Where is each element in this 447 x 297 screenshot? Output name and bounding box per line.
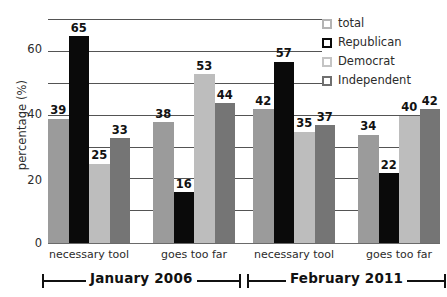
bar-independent bbox=[110, 138, 131, 243]
legend-swatch-icon bbox=[322, 38, 332, 48]
bar-total bbox=[253, 109, 274, 243]
legend-item-total[interactable]: total bbox=[322, 14, 442, 33]
group-bracket-cap-left bbox=[42, 274, 44, 288]
bar-independent bbox=[315, 125, 336, 243]
bar-total bbox=[358, 135, 379, 243]
bar-value-label: 37 bbox=[312, 112, 339, 124]
bar-value-label: 33 bbox=[107, 125, 134, 137]
bar-value-label: 65 bbox=[66, 23, 93, 35]
clipped-title-text bbox=[0, 0, 447, 4]
bar-democrat bbox=[89, 164, 110, 244]
category-label: goes too far bbox=[349, 249, 447, 260]
y-axis-tick-labels: 60 40 20 0 bbox=[10, 0, 42, 297]
bar-independent bbox=[215, 103, 236, 243]
group-bracket-cap-right bbox=[444, 274, 446, 288]
bar-value-label: 39 bbox=[45, 105, 72, 117]
legend-swatch-icon bbox=[322, 19, 332, 29]
y-tick-20: 20 bbox=[16, 175, 42, 187]
bar-independent bbox=[420, 109, 441, 243]
legend-swatch-icon bbox=[322, 76, 332, 86]
bar-value-label: 25 bbox=[86, 150, 113, 162]
category-label: necessary tool bbox=[244, 249, 344, 260]
y-tick-40: 40 bbox=[16, 109, 42, 121]
bar-value-label: 42 bbox=[417, 96, 444, 108]
group-bracket-cap-right bbox=[239, 274, 241, 288]
x-axis-baseline bbox=[48, 243, 440, 244]
bar-value-label: 42 bbox=[250, 96, 277, 108]
legend-swatch-icon bbox=[322, 57, 332, 67]
legend: totalRepublicanDemocratIndependent bbox=[322, 14, 442, 90]
bar-republican bbox=[379, 173, 400, 243]
legend-item-label: Republican bbox=[338, 37, 402, 49]
gridline-40 bbox=[48, 115, 440, 116]
legend-item-label: Independent bbox=[338, 75, 411, 87]
bar-value-label: 44 bbox=[212, 90, 239, 102]
group-bracket-label: February 2011 bbox=[286, 270, 407, 286]
group-bracket-label: January 2006 bbox=[86, 270, 197, 286]
bar-value-label: 34 bbox=[355, 121, 382, 133]
bar-value-label: 53 bbox=[191, 61, 218, 73]
bar-republican bbox=[69, 36, 90, 243]
bar-value-label: 16 bbox=[171, 179, 198, 191]
bar-chart: percentage (%) 60 40 20 0 39652533381653… bbox=[0, 0, 447, 297]
bar-democrat bbox=[294, 132, 315, 243]
legend-item-democrat[interactable]: Democrat bbox=[322, 52, 442, 71]
bar-value-label: 22 bbox=[376, 160, 403, 172]
y-tick-60: 60 bbox=[16, 44, 42, 56]
group-bracket: February 2011 bbox=[247, 270, 446, 292]
legend-item-independent[interactable]: Independent bbox=[322, 71, 442, 90]
bar-value-label: 38 bbox=[150, 109, 177, 121]
legend-item-label: total bbox=[338, 18, 364, 30]
group-bracket-cap-left bbox=[247, 274, 249, 288]
group-bracket: January 2006 bbox=[42, 270, 241, 292]
category-label: goes too far bbox=[144, 249, 244, 260]
bar-democrat bbox=[399, 116, 420, 243]
bar-value-label: 57 bbox=[271, 48, 298, 60]
category-label: necessary tool bbox=[39, 249, 139, 260]
y-tick-0: 0 bbox=[16, 238, 42, 250]
legend-item-republican[interactable]: Republican bbox=[322, 33, 442, 52]
legend-item-label: Democrat bbox=[338, 56, 395, 68]
bar-republican bbox=[174, 192, 195, 243]
bar-republican bbox=[274, 62, 295, 243]
bar-total bbox=[48, 119, 69, 243]
